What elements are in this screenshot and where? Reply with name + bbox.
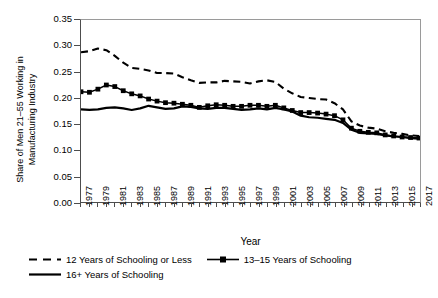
dashed-line-key: [28, 254, 62, 265]
series-marker: [172, 101, 177, 106]
y-tick-label: 0.20: [42, 92, 72, 103]
y-tick-label: 0.00: [42, 197, 72, 208]
series-marker: [205, 103, 210, 108]
legend-label-2: 16+ Years of Schooling: [66, 269, 163, 280]
legend-item-0[interactable]: 12 Years of Schooling or Less: [28, 254, 192, 265]
chart-legend: 12 Years of Schooling or Less 13–15 Year…: [28, 252, 432, 282]
series-marker: [129, 91, 134, 96]
x-tick-mark: [327, 203, 328, 207]
x-tick-mark: [395, 203, 396, 207]
x-tick-mark: [250, 203, 251, 207]
x-tick-mark: [216, 203, 217, 207]
y-tick-label: 0.35: [42, 13, 72, 24]
x-tick-mark: [386, 203, 387, 207]
y-tick-label: 0.05: [42, 171, 72, 182]
series-marker: [104, 83, 109, 88]
x-tick-mark: [97, 203, 98, 207]
series-marker: [307, 110, 312, 115]
series-marker: [146, 97, 151, 102]
series-marker: [112, 84, 117, 89]
series-marker: [265, 104, 270, 109]
x-tick-mark: [114, 203, 115, 207]
x-tick-mark: [148, 203, 149, 207]
x-tick-mark: [191, 203, 192, 207]
series-canvas: [81, 20, 420, 202]
y-tick-label: 0.15: [42, 118, 72, 129]
series-marker: [239, 104, 244, 109]
legend-label-1: 13–15 Years of Schooling: [244, 254, 352, 265]
x-tick-mark: [259, 203, 260, 207]
x-tick-mark: [131, 203, 132, 207]
x-tick-mark: [165, 203, 166, 207]
x-tick-mark: [233, 203, 234, 207]
series-marker: [81, 89, 83, 94]
x-tick-mark: [89, 203, 90, 207]
series-markers-1: [81, 83, 420, 141]
series-marker: [121, 88, 126, 93]
x-tick-mark: [361, 203, 362, 207]
x-tick-mark: [318, 203, 319, 207]
x-tick-mark: [242, 203, 243, 207]
x-tick-mark: [199, 203, 200, 207]
series-marker: [214, 102, 219, 107]
series-marker: [256, 103, 261, 108]
series-marker: [248, 103, 253, 108]
x-tick-mark: [140, 203, 141, 207]
x-tick-mark: [293, 203, 294, 207]
x-tick-label: 2017: [424, 186, 434, 206]
x-tick-mark: [174, 203, 175, 207]
x-tick-mark: [267, 203, 268, 207]
legend-row-1: 12 Years of Schooling or Less 13–15 Year…: [28, 252, 432, 267]
series-marker: [324, 112, 329, 117]
x-tick-mark: [106, 203, 107, 207]
x-tick-mark: [123, 203, 124, 207]
x-tick-mark: [403, 203, 404, 207]
x-tick-mark: [420, 203, 421, 207]
legend-label-0: 12 Years of Schooling or Less: [66, 254, 192, 265]
x-tick-mark: [80, 203, 81, 207]
x-tick-mark: [335, 203, 336, 207]
x-tick-mark: [182, 203, 183, 207]
x-tick-mark: [284, 203, 285, 207]
x-tick-mark: [412, 203, 413, 207]
y-tick-label: 0.25: [42, 66, 72, 77]
chart-figure: Share of Men 21–55 Working in Manufactur…: [0, 0, 438, 298]
x-tick-mark: [344, 203, 345, 207]
x-tick-mark: [301, 203, 302, 207]
series-marker: [96, 87, 101, 92]
solid-line-key: [28, 269, 62, 280]
series-marker: [332, 113, 337, 118]
y-tick-label: 0.10: [42, 144, 72, 155]
x-axis-title: Year: [80, 236, 421, 247]
y-axis-title: Share of Men 21–55 Working in Manufactur…: [15, 22, 38, 218]
legend-item-2[interactable]: 16+ Years of Schooling: [28, 269, 163, 280]
x-tick-mark: [208, 203, 209, 207]
series-marker: [138, 94, 143, 99]
x-tick-mark: [378, 203, 379, 207]
series-marker: [315, 111, 320, 116]
series-marker: [87, 90, 92, 95]
x-tick-mark: [369, 203, 370, 207]
x-tick-mark: [352, 203, 353, 207]
x-tick-mark: [310, 203, 311, 207]
x-tick-mark: [157, 203, 158, 207]
y-tick-label: 0.30: [42, 39, 72, 50]
legend-row-2: 16+ Years of Schooling: [28, 267, 432, 282]
series-marker: [163, 100, 168, 105]
x-tick-mark: [225, 203, 226, 207]
series-line-2: [81, 106, 419, 139]
plot-area: [80, 19, 421, 203]
legend-item-1[interactable]: 13–15 Years of Schooling: [206, 254, 352, 265]
series-marker: [155, 99, 160, 104]
x-tick-mark: [276, 203, 277, 207]
square-marker-line-key: [206, 254, 240, 265]
